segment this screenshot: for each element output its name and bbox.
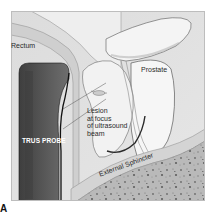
label-rectum: Rectum — [11, 42, 35, 50]
label-lesion: Lesion at focus of ultrasound beam — [87, 107, 127, 137]
anatomy-diagram: Rectum Prostate Lesion at focus of ultra… — [11, 11, 205, 201]
label-prostate: Prostate — [141, 66, 167, 74]
panel-letter: A — [0, 203, 7, 214]
lesion-focus — [93, 91, 105, 96]
label-trus-probe: TRUS PROBE — [22, 137, 66, 145]
